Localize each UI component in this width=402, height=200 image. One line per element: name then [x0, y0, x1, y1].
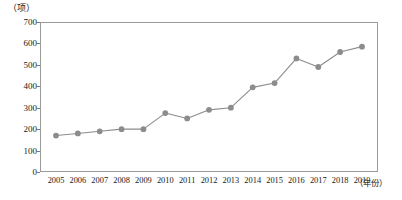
data-series-layer: 2005: 1702006: 1802007: 1902008: 2002009… [40, 22, 378, 172]
series-line [56, 47, 362, 136]
x-axis-tick-label: 2006 [69, 176, 86, 185]
x-axis-unit-label: （年份） [355, 176, 387, 188]
x-axis-tick-label: 2011 [179, 176, 195, 185]
y-axis-tick-mark [36, 172, 40, 173]
data-point-marker: 2014: 395 [250, 84, 256, 90]
x-axis-tick-labels: 2005200620072008200920102011201220132014… [40, 176, 378, 192]
y-axis-tick-marks [0, 22, 41, 172]
data-point-marker: 2013: 300 [228, 105, 234, 111]
data-point-marker: 2011: 250 [184, 116, 190, 122]
data-point-marker: 2012: 290 [206, 107, 212, 113]
x-axis-tick-label: 2013 [222, 176, 239, 185]
data-point-marker: 2015: 415 [272, 80, 278, 86]
x-axis-tick-label: 2009 [135, 176, 152, 185]
data-point-marker: 2008: 200 [119, 126, 125, 132]
x-axis-tick-label: 2016 [288, 176, 305, 185]
line-chart: （项） 0100200300400500600700 2005: 1702006… [0, 0, 402, 200]
x-axis-tick-label: 2007 [91, 176, 108, 185]
x-axis-tick-label: 2014 [244, 176, 261, 185]
data-point-marker: 2009: 200 [141, 126, 147, 132]
data-point-marker: 2016: 530 [294, 56, 300, 62]
x-axis-tick-label: 2017 [310, 176, 327, 185]
x-axis-tick-label: 2018 [332, 176, 349, 185]
data-point-marker: 2010: 275 [162, 110, 168, 116]
data-point-marker: 2018: 560 [337, 49, 343, 55]
x-axis-tick-label: 2015 [266, 176, 283, 185]
data-point-marker: 2005: 170 [53, 133, 59, 139]
x-axis-tick-label: 2008 [113, 176, 130, 185]
y-axis-unit-label: （项） [8, 1, 34, 14]
data-point-marker: 2017: 490 [315, 64, 321, 70]
x-axis-tick-label: 2005 [48, 176, 65, 185]
data-point-marker: 2007: 190 [97, 128, 103, 134]
x-axis-tick-label: 2010 [157, 176, 174, 185]
data-point-marker: 2006: 180 [75, 131, 81, 137]
data-point-marker: 2019: 585 [359, 44, 365, 50]
x-axis-tick-label: 2012 [201, 176, 218, 185]
